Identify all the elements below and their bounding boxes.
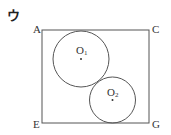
- circle-o1-label: O1: [76, 44, 88, 57]
- vertex-label-e: E: [33, 118, 40, 130]
- rectangle-aceg: [42, 30, 149, 123]
- center-point-o1: [80, 58, 82, 60]
- circle-o2-label: O2: [107, 86, 119, 99]
- center-point-o2: [112, 99, 114, 101]
- vertex-label-c: C: [152, 23, 159, 35]
- diagram-canvas: O1 O2 A C E G: [0, 0, 171, 135]
- vertex-label-a: A: [33, 23, 41, 35]
- figure-label: ウ: [7, 9, 20, 22]
- geometry-figure: ウ O1 O2 A C E G: [0, 0, 171, 135]
- vertex-label-g: G: [152, 118, 160, 130]
